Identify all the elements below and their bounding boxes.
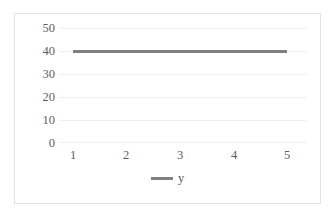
y-axis-tick-30: 30: [21, 68, 55, 80]
legend-label-y: y: [178, 171, 184, 185]
chart-container: 50 40 30 20 10 0 1 2 3 4 5 y: [14, 13, 321, 204]
x-axis-tick-5: 5: [284, 148, 290, 162]
gridline-30: [59, 74, 307, 75]
gridline-20: [59, 97, 307, 98]
y-axis-tick-40: 40: [21, 45, 55, 57]
x-axis: 1 2 3 4 5: [59, 148, 307, 166]
gridline-10: [59, 120, 307, 121]
gridline-0: [59, 142, 307, 143]
legend-entry-y[interactable]: y: [151, 171, 184, 185]
series-line-y: [73, 50, 287, 53]
y-axis-tick-0: 0: [21, 137, 55, 149]
y-axis-tick-10: 10: [21, 114, 55, 126]
plot-area: [59, 28, 307, 143]
chart-legend: y: [15, 171, 320, 185]
x-axis-tick-3: 3: [177, 148, 183, 162]
y-axis-tick-50: 50: [21, 22, 55, 34]
gridline-50: [59, 28, 307, 29]
x-axis-tick-2: 2: [123, 148, 129, 162]
x-axis-tick-4: 4: [231, 148, 237, 162]
x-axis-tick-1: 1: [70, 148, 76, 162]
y-axis: 50 40 30 20 10 0: [15, 28, 55, 143]
legend-line-swatch-icon: [151, 177, 173, 180]
y-axis-tick-20: 20: [21, 91, 55, 103]
